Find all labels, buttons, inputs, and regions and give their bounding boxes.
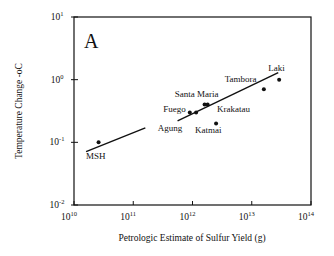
data-point — [97, 140, 101, 144]
data-points — [97, 78, 282, 145]
y-tick-label: 10-2 — [50, 198, 65, 210]
data-point — [194, 110, 198, 114]
panel-label: A — [84, 30, 99, 52]
point-label: Santa Maria — [175, 89, 219, 99]
point-labels: MSHAgungFuegoSanta MariaKatmaiKrakatauTa… — [86, 63, 285, 160]
point-label: MSH — [86, 151, 106, 161]
data-point — [277, 78, 281, 82]
point-label: Krakatau — [217, 104, 250, 114]
plot-frame — [74, 17, 311, 205]
y-tick-label: 10-1 — [50, 135, 65, 147]
x-tick-label: 1013 — [239, 210, 255, 222]
point-label: Tambora — [225, 74, 257, 84]
data-point — [188, 110, 192, 114]
x-axis-label: Petrologic Estimate of Sulfur Yield (g) — [118, 233, 265, 244]
x-tick-label: 1010 — [61, 210, 77, 222]
x-tick-label: 1012 — [180, 210, 196, 222]
point-label: Katmai — [195, 125, 222, 135]
y-tick-label: 101 — [51, 10, 64, 22]
chart: 10101011101210131014 10-210-1100101 MSHA… — [0, 0, 334, 256]
y-axis-label: Temperature Change -oC — [14, 63, 24, 159]
data-point — [262, 87, 266, 91]
x-tick-label: 1014 — [298, 210, 315, 222]
point-label: Fuego — [163, 104, 186, 114]
point-label: Laki — [268, 63, 285, 73]
data-point — [206, 103, 210, 107]
fit-line-segment — [86, 128, 145, 152]
x-tick-labels: 10101011101210131014 — [61, 210, 315, 222]
y-tick-label: 100 — [51, 73, 64, 85]
point-label: Agung — [158, 123, 183, 133]
y-tick-labels: 10-210-1100101 — [50, 10, 65, 210]
x-tick-label: 1011 — [120, 210, 136, 222]
